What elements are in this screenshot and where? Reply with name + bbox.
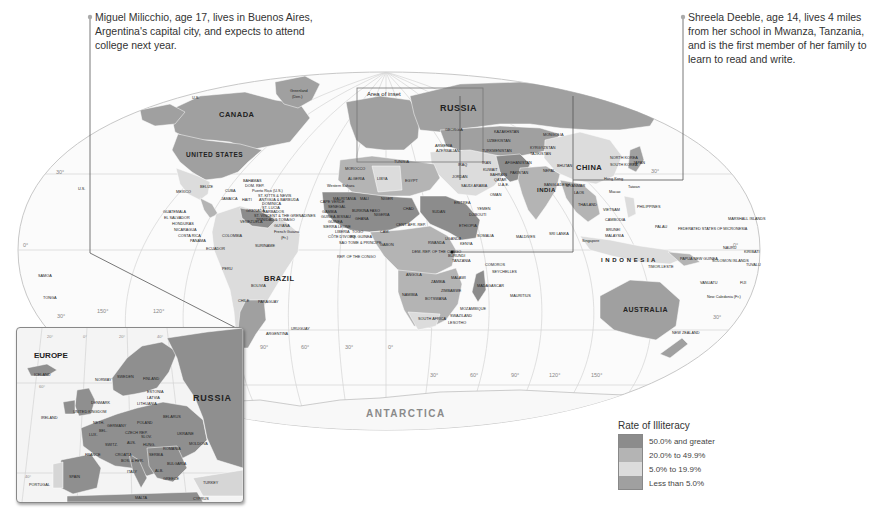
country-label: MONGOLIA xyxy=(543,133,564,137)
country-label: U.S. xyxy=(192,96,199,100)
country-label: BHUTAN xyxy=(557,164,573,168)
svg-text:POLAND: POLAND xyxy=(137,421,153,425)
svg-text:LITHUANIA: LITHUANIA xyxy=(137,402,157,406)
svg-text:PORTUGAL: PORTUGAL xyxy=(29,483,50,487)
country-label: PANAMA xyxy=(190,239,206,243)
graticule-label: 150° xyxy=(591,372,602,378)
country-label: NORTH KOREA xyxy=(610,156,638,160)
svg-text:BULGARIA: BULGARIA xyxy=(167,462,187,466)
country-label: KUWAIT xyxy=(483,168,498,172)
country-label: BRUNEI xyxy=(606,228,620,232)
country-label: EGYPT xyxy=(405,179,419,183)
scandinavia xyxy=(112,342,177,396)
country-label: NIGER xyxy=(381,197,393,201)
country-label: COLOMBIA xyxy=(222,234,243,238)
country-label: EL SALVADOR xyxy=(164,216,190,220)
svg-text:SWITZ.: SWITZ. xyxy=(105,443,118,447)
svg-text:UKRAINE: UKRAINE xyxy=(177,432,194,436)
legend-swatch xyxy=(618,434,643,448)
country-label: MALAWI xyxy=(451,276,466,280)
graticule-label: 60° xyxy=(470,372,478,378)
legend-swatch xyxy=(618,476,643,490)
inset-title: EUROPE xyxy=(34,351,68,360)
country-label: ETHIOPIA xyxy=(459,224,477,228)
callout-miguel: Miguel Milicchio, age 17, lives in Bueno… xyxy=(95,10,395,52)
country-label: ZAMBIA xyxy=(431,280,446,284)
graticule-label: 120° xyxy=(549,372,560,378)
country-label: ANGOLA xyxy=(406,273,422,277)
graticule-label: 0° xyxy=(733,242,738,248)
country-label: COMOROS xyxy=(485,263,506,267)
country-label: GEORGIA xyxy=(445,128,463,132)
svg-text:20°: 20° xyxy=(47,334,53,339)
country-label: CHILE xyxy=(238,299,250,303)
legend: Rate of Illiteracy 50.0% and greater 20.… xyxy=(618,420,715,490)
label-russia: RUSSIA xyxy=(440,103,477,113)
country-label: GABON xyxy=(380,243,394,247)
callout-dot xyxy=(681,15,685,19)
graticule-label: 90° xyxy=(511,372,519,378)
country-label: GHANA xyxy=(355,217,369,221)
iberia xyxy=(57,454,101,494)
country-label: MALDIVES xyxy=(516,235,536,239)
svg-text:40°: 40° xyxy=(157,334,163,339)
country-label: SRI LANKA xyxy=(549,232,569,236)
callout-line: Argentina's capital city, and expects to… xyxy=(95,24,395,38)
svg-text:LUX.: LUX. xyxy=(89,433,97,437)
label-antarctica: ANTARCTICA xyxy=(366,408,446,419)
svg-text:TURKEY: TURKEY xyxy=(203,481,219,485)
country-label: Western Sahara xyxy=(327,184,355,188)
country-label: Hong Kong xyxy=(604,177,623,181)
svg-text:CROATIA: CROATIA xyxy=(115,453,132,457)
country-label: ERITREA xyxy=(454,201,471,205)
graticule-label: 30° xyxy=(345,344,353,350)
label-canada: CANADA xyxy=(219,110,255,119)
svg-text:20°: 20° xyxy=(119,334,125,339)
legend-item: 5.0% to 19.9% xyxy=(618,462,715,476)
country-label: MADAGASCAR xyxy=(477,284,504,288)
inset-russia-label: RUSSIA xyxy=(193,393,232,403)
svg-text:MALTA: MALTA xyxy=(135,496,148,500)
country-label: CAPE VERDE xyxy=(320,200,345,204)
country-label: TUNISIA xyxy=(394,160,409,164)
svg-text:BEL.: BEL. xyxy=(99,429,107,433)
svg-text:LATVIA: LATVIA xyxy=(147,396,160,400)
country-label: QATAR xyxy=(494,178,507,182)
country-label: UZBEKISTAN xyxy=(487,139,511,143)
country-label: TUVALU xyxy=(746,263,761,267)
legend-swatch xyxy=(618,462,643,476)
country-label: SEYCHELLES xyxy=(492,270,517,274)
legend-swatch xyxy=(618,448,643,462)
country-label: CHAD xyxy=(403,207,414,211)
graticule-label: 120° xyxy=(153,308,164,314)
svg-text:CYPRUS: CYPRUS xyxy=(193,497,209,501)
country-label: CENT. AFR. REP. xyxy=(396,223,426,227)
country-label: LIBERIA xyxy=(335,230,350,234)
country-label: NIGERIA xyxy=(374,213,390,217)
country-label: MOZAMBIQUE xyxy=(460,307,486,311)
country-label: MOROCCO xyxy=(345,167,365,171)
country-label: JAMAICA xyxy=(221,197,238,201)
legend-item: 20.0% to 49.9% xyxy=(618,448,715,462)
country-label: TIMOR-LESTE xyxy=(648,265,674,269)
country-label: GUINEA xyxy=(328,220,343,224)
country-label: ZIMBABWE xyxy=(441,289,462,293)
svg-text:NORWAY: NORWAY xyxy=(95,378,112,382)
country-label: GRENADA xyxy=(246,209,265,213)
graticule-label: 90° xyxy=(260,344,268,350)
svg-text:60°: 60° xyxy=(39,384,45,389)
country-label: DEM. REP. OF THE CONGO xyxy=(412,250,461,254)
country-label: PAKISTAN xyxy=(510,171,528,175)
country-label: KIRIBATI xyxy=(744,250,760,254)
legend-label: Less than 5.0% xyxy=(649,479,704,488)
country-label: Taiwan xyxy=(628,185,640,189)
europe-inset-map: EUROPE RUSSIA ICELAND NORWAY SWEDEN FINL… xyxy=(17,328,243,502)
callout-shreela-text: Shreela Deeble, age 14, lives 4 miles fr… xyxy=(688,10,871,66)
svg-text:SERBIA: SERBIA xyxy=(149,453,163,457)
country-label: VENEZUELA xyxy=(240,220,263,224)
country-label: SOLOMON ISLANDS xyxy=(712,259,749,263)
country-label: AFGHANISTAN xyxy=(505,161,532,165)
callout-line: and is the first member of her family to xyxy=(688,38,871,52)
area-of-inset-label: Area of inset xyxy=(367,91,401,97)
legend-item: 50.0% and greater xyxy=(618,434,715,448)
